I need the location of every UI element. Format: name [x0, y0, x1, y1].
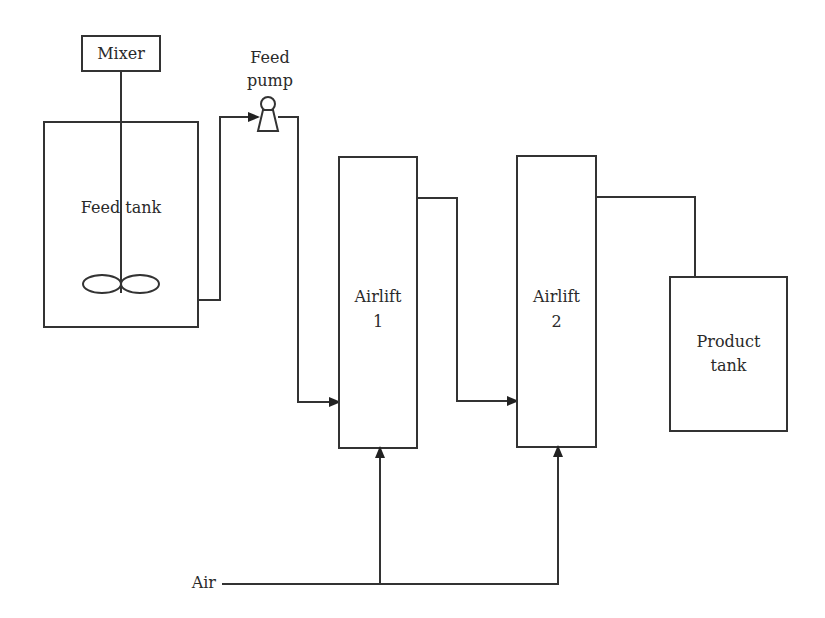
- pipe-feed-tank-to-pump: [198, 117, 258, 300]
- feed-tank-label: Feed tank: [44, 198, 198, 218]
- airlift-2-label: Airlift 2: [517, 284, 596, 334]
- airlift-1-label-line1: Airlift: [339, 284, 417, 309]
- feed-pump-label: Feed pump: [240, 46, 300, 92]
- product-tank-label: Product tank: [670, 330, 787, 378]
- feed-pump-label-line2: pump: [240, 69, 300, 92]
- airlift-1-label: Airlift 1: [339, 284, 417, 334]
- airlift-1-label-line2: 1: [339, 309, 417, 334]
- product-tank-label-line1: Product: [670, 330, 787, 354]
- airlift-2-label-line1: Airlift: [517, 284, 596, 309]
- pump-icon: [258, 97, 278, 131]
- pipe-pump-to-airlift-1: [278, 117, 339, 402]
- mixer-label: Mixer: [82, 44, 160, 64]
- pipe-airlift-1-to-airlift-2: [417, 198, 517, 401]
- air-inlet-label: Air: [180, 573, 216, 593]
- feed-pump-label-line1: Feed: [240, 46, 300, 69]
- product-tank-label-line2: tank: [670, 354, 787, 378]
- airlift-2-label-line2: 2: [517, 309, 596, 334]
